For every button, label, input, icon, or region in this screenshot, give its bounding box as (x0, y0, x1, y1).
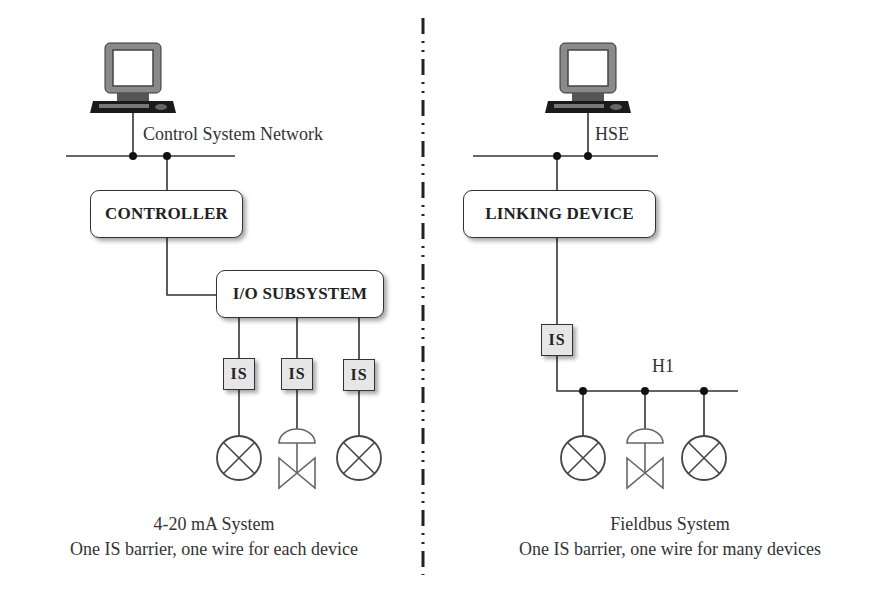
left-caption-subtitle: One IS barrier, one wire for each device (24, 537, 404, 562)
is-barrier-2: IS (281, 358, 313, 390)
junction-dot (700, 387, 708, 395)
io-subsystem-box: I/O SUBSYSTEM (216, 270, 384, 318)
left-instrument-icon-1 (217, 436, 261, 480)
linking-device-box: LINKING DEVICE (463, 190, 656, 238)
left-instrument-icon-2 (337, 436, 381, 480)
right-caption-title: Fieldbus System (460, 512, 880, 537)
h1-bus-label: H1 (652, 356, 674, 377)
is-barrier-fieldbus: IS (541, 324, 573, 356)
junction-dot (129, 152, 137, 160)
right-control-valve-icon (627, 429, 663, 488)
right-instrument-icon-1 (561, 436, 605, 480)
is-barrier-3: IS (343, 359, 375, 391)
junction-dot (163, 152, 171, 160)
right-instrument-icon-2 (682, 436, 726, 480)
right-workstation-icon (545, 43, 631, 113)
junction-dot (641, 387, 649, 395)
right-caption-subtitle: One IS barrier, one wire for many device… (460, 537, 880, 562)
is-barrier-1: IS (223, 358, 255, 390)
controller-box: CONTROLLER (90, 190, 243, 238)
junction-dot (584, 152, 592, 160)
junction-dot (553, 152, 561, 160)
junction-dot (579, 387, 587, 395)
left-control-valve-icon (279, 429, 315, 488)
left-workstation-icon (90, 43, 176, 113)
hse-label: HSE (595, 124, 629, 145)
left-caption-title: 4-20 mA System (24, 512, 404, 537)
control-network-label: Control System Network (143, 124, 323, 145)
